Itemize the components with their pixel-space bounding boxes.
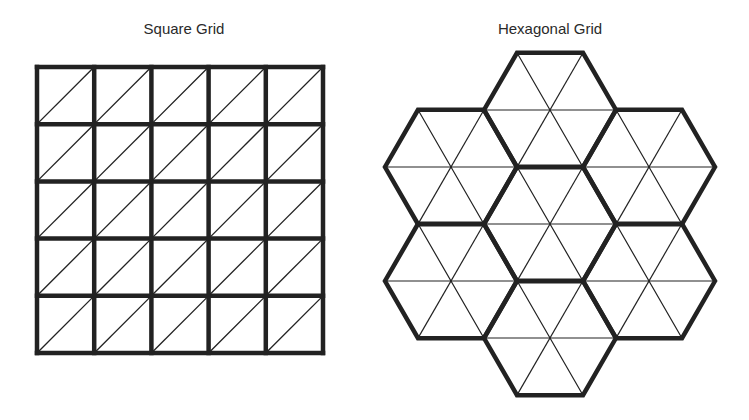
cell-diagonal — [151, 181, 208, 238]
cell-diagonal — [94, 124, 151, 181]
cell-diagonal — [266, 296, 323, 353]
cell-diagonal — [37, 124, 94, 181]
cell-diagonal — [37, 181, 94, 238]
cell-diagonal — [266, 239, 323, 296]
cell-diagonal — [151, 296, 208, 353]
cell-diagonal — [209, 239, 266, 296]
cell-diagonal — [37, 296, 94, 353]
cell-diagonal — [266, 181, 323, 238]
cell-diagonal — [94, 239, 151, 296]
cell-diagonal — [151, 239, 208, 296]
square-grid — [37, 67, 323, 353]
cell-diagonal — [266, 124, 323, 181]
cell-diagonal — [266, 67, 323, 124]
cell-diagonal — [209, 296, 266, 353]
hexagonal-grid — [385, 53, 715, 395]
cell-diagonal — [209, 67, 266, 124]
cell-diagonal — [37, 67, 94, 124]
cell-diagonal — [151, 67, 208, 124]
cell-diagonal — [94, 181, 151, 238]
cell-diagonal — [209, 124, 266, 181]
cell-diagonal — [209, 181, 266, 238]
cell-diagonal — [151, 124, 208, 181]
diagram-canvas — [0, 0, 749, 420]
cell-diagonal — [94, 67, 151, 124]
cell-diagonal — [94, 296, 151, 353]
cell-diagonal — [37, 239, 94, 296]
